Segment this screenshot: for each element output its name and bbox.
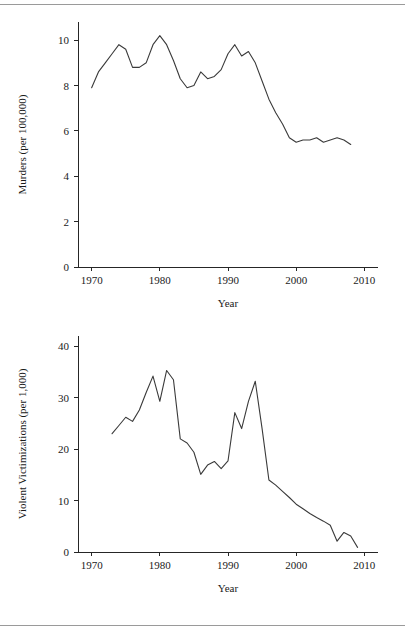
victimizations-plot-svg: 01020304019701980199020002010YearViolent… — [0, 308, 405, 618]
x-tick-label: 2000 — [285, 559, 308, 571]
y-tick-label: 20 — [58, 443, 70, 455]
horizontal-rule-bottom — [0, 625, 405, 626]
y-tick-label: 8 — [64, 80, 70, 92]
y-tick-label: 0 — [64, 546, 70, 558]
y-tick-label: 30 — [58, 392, 70, 404]
y-tick-label: 2 — [64, 216, 70, 228]
x-tick-label: 1990 — [217, 559, 240, 571]
chart-murders: 024681019701980199020002010YearMurders (… — [0, 8, 405, 308]
y-tick-label: 0 — [64, 261, 70, 273]
y-tick-label: 40 — [58, 340, 70, 352]
y-axis-title: Murders (per 100,000) — [16, 94, 29, 194]
figure-page: 024681019701980199020002010YearMurders (… — [0, 0, 405, 636]
x-tick-label: 1980 — [149, 559, 172, 571]
x-tick-label: 2000 — [285, 274, 308, 286]
murders-plot-svg: 024681019701980199020002010YearMurders (… — [0, 8, 405, 308]
chart-victimizations: 01020304019701980199020002010YearViolent… — [0, 308, 405, 618]
horizontal-rule-top — [0, 4, 405, 5]
x-tick-label: 2010 — [353, 559, 376, 571]
x-tick-label: 1990 — [217, 274, 240, 286]
data-series-line — [112, 370, 357, 547]
x-tick-label: 2010 — [353, 274, 376, 286]
data-series-line — [92, 36, 351, 145]
x-tick-label: 1970 — [81, 559, 104, 571]
y-axis-title: Violent Victimizations (per 1,000) — [16, 368, 29, 519]
x-axis-title: Year — [218, 297, 239, 308]
y-tick-label: 6 — [64, 125, 70, 137]
y-tick-label: 10 — [58, 34, 70, 46]
x-axis-title: Year — [218, 582, 239, 594]
y-tick-label: 10 — [58, 495, 70, 507]
x-tick-label: 1980 — [149, 274, 172, 286]
x-tick-label: 1970 — [81, 274, 104, 286]
y-tick-label: 4 — [64, 170, 70, 182]
